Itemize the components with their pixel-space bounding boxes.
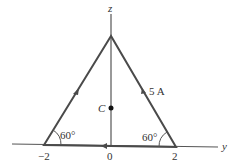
point-c-label: C [98,103,105,114]
arrow-bottom-icon [101,143,107,149]
arrow-left-side-icon [73,88,79,95]
angle-arc-right [159,132,167,147]
z-axis-label: z [108,3,112,14]
tick-label-neg2: −2 [38,151,50,162]
angle-label-right: 60° [142,132,157,143]
tick-label-2: 2 [172,151,178,162]
current-label: 5 A [149,86,165,97]
triangle-loop-diagram [0,0,237,168]
angle-label-left: 60° [60,130,75,141]
point-c-marker [109,106,114,111]
y-axis-label: y [222,141,227,152]
tick-label-origin: 0 [107,151,113,162]
